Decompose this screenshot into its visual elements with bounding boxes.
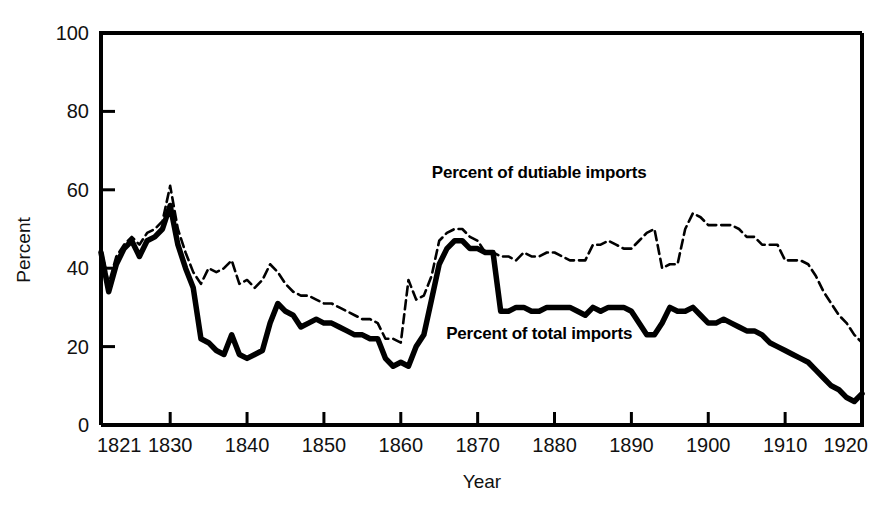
x-tick-label: 1890 [609, 434, 654, 456]
line-chart: 020406080100 182118301840185018601870188… [0, 0, 893, 507]
x-tick-label: 1830 [148, 434, 193, 456]
x-tick-label: 1900 [686, 434, 731, 456]
x-tick-label: 1821 [97, 434, 142, 456]
series-annotation-0: Percent of dutiable imports [432, 163, 647, 182]
x-tick-label: 1880 [532, 434, 577, 456]
x-tick-label: 1910 [763, 434, 808, 456]
y-tick-label: 60 [67, 179, 89, 201]
y-tick-label: 20 [67, 336, 89, 358]
x-tick-label: 1870 [455, 434, 500, 456]
series-annotation-1: Percent of total imports [446, 324, 632, 343]
x-tick-label: 1840 [225, 434, 270, 456]
y-tick-label: 80 [67, 100, 89, 122]
y-tick-label: 0 [78, 414, 89, 436]
x-axis-title: Year [463, 471, 502, 492]
chart-container: 020406080100 182118301840185018601870188… [0, 0, 893, 507]
x-tick-label: 1920 [824, 434, 869, 456]
x-tick-label: 1850 [302, 434, 347, 456]
y-tick-label: 40 [67, 257, 89, 279]
y-axis-title: Percent [13, 217, 34, 283]
x-tick-label: 1860 [379, 434, 424, 456]
y-tick-label: 100 [56, 22, 89, 44]
